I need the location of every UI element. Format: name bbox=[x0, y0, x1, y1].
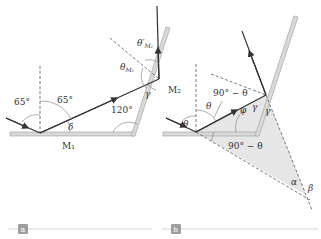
panel-tag-b: b bbox=[162, 224, 318, 234]
panel-b: θ θ 90° − θ 90° − θ φ γ γ α β bbox=[163, 16, 313, 210]
angle-reflected-label: 65° bbox=[57, 95, 73, 105]
panel-tag-a: a bbox=[8, 224, 152, 234]
beta-label: β bbox=[307, 183, 313, 193]
theta-prime-m2-label: θ′M₂ bbox=[137, 38, 154, 49]
gamma1-label: γ bbox=[252, 102, 258, 112]
theta-m2-label: θM₂ bbox=[120, 62, 135, 73]
gamma2-label: γ bbox=[265, 106, 271, 116]
ninety-minus-theta-top-label: 90° − θ bbox=[213, 88, 248, 98]
theta-right-label: θ bbox=[206, 101, 212, 111]
angle-120-label: 120° bbox=[111, 105, 133, 115]
mirror-bottom bbox=[163, 132, 258, 136]
mirror-m1-label: M₁ bbox=[62, 141, 75, 151]
panel-a: 65° 65° 120° δ γ θM₂ θ′M₂ M₁ M₂ bbox=[6, 6, 181, 151]
svg-text:b: b bbox=[174, 225, 179, 234]
theta-left-label: θ bbox=[183, 119, 189, 129]
mirror-tilted bbox=[255, 16, 298, 136]
alpha-label: α bbox=[291, 177, 297, 187]
mirror-m2-label: M₂ bbox=[168, 85, 181, 95]
gamma-label: γ bbox=[145, 89, 151, 99]
svg-text:a: a bbox=[21, 225, 26, 234]
angle-incident-label: 65° bbox=[14, 97, 30, 107]
delta-label: δ bbox=[68, 122, 73, 132]
ninety-minus-theta-bottom-label: 90° − θ bbox=[228, 141, 263, 151]
phi-label: φ bbox=[240, 105, 247, 115]
mirror-m1 bbox=[10, 132, 134, 136]
